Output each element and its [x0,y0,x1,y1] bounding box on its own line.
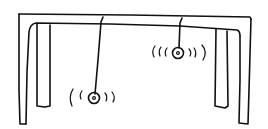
right-front-leg [239,19,251,124]
vibration-marks-left-inner [80,91,82,99]
vibration-marks-left-right2 [112,92,114,102]
pendulum-right-bob-inner [177,52,180,55]
pendulum-right-bob-outer [173,48,184,59]
pendulum-right-string [179,18,182,48]
vibration-marks-right-right1 [189,49,191,56]
left-back-leg [37,24,50,107]
vibration-marks-left-right1 [105,93,107,101]
left-front-leg-outer [19,14,26,124]
vibration-marks-left-outer [70,89,73,106]
pendulum-right [153,18,206,60]
vibration-marks-right-left1 [153,46,155,57]
table-top-outer-edge [19,14,251,19]
right-back-leg [215,29,228,108]
table-top-inner-edge [26,23,240,124]
pendulum-left-bob-inner [93,97,96,100]
table-frame [19,14,251,124]
vibration-marks-right-right3 [202,45,205,60]
vibration-marks-right-left2 [159,47,161,56]
pendulum-left [70,17,114,106]
vibration-marks-right-right2 [194,48,196,57]
table-pendulum-sketch [0,0,268,129]
vibration-marks-right-left3 [165,48,167,56]
pendulum-left-string [95,17,103,94]
pendulum-left-bob-outer [89,93,100,104]
